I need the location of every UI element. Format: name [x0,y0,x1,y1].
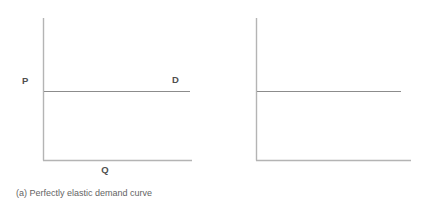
demand-figure-caption: (a) Perfectly elastic demand curve [16,188,152,199]
demand-price-axis-label: P [22,76,29,86]
demand-curve-label: D [172,75,179,85]
supply-chart-svg [215,0,429,175]
figure-panel-supply: P Q S (b) Perfectly elastic supply curve [215,0,429,211]
figure-panel-demand: P Q D (a) Perfectly elastic demand curve [0,0,215,211]
demand-chart-svg [0,0,215,175]
demand-quantity-axis-label: Q [101,165,109,175]
perfectly-elastic-curves-figure: P Q D (a) Perfectly elastic demand curve… [0,0,429,211]
demand-chart-plot [0,0,215,175]
supply-chart-plot [215,0,429,175]
